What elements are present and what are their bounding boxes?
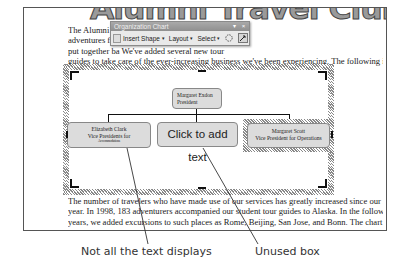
- org-box-title: President: [177, 99, 221, 106]
- resize-handle-bottom-right[interactable]: [318, 179, 327, 188]
- toolbar-close-button[interactable]: ×: [240, 23, 247, 30]
- org-box-title: Vice President for Operations: [248, 135, 329, 142]
- chevron-down-icon: ▾: [162, 35, 165, 41]
- resize-handle-bottom[interactable]: [198, 187, 206, 189]
- connector-line: [108, 114, 109, 122]
- toolbar-buttons: Insert Shape ▾ Layout ▾ Select ▾: [111, 31, 249, 45]
- text-line: The number of travelers who have made us…: [68, 196, 383, 206]
- body-paragraph[interactable]: The number of travelers who have made us…: [68, 196, 383, 227]
- caption-unused-box: Unused box: [255, 245, 320, 258]
- org-box-overflow-text: Accommodations: [68, 139, 150, 143]
- org-box-president[interactable]: Margaret Exdon President: [172, 88, 222, 109]
- resize-handle-top-left[interactable]: [70, 71, 79, 80]
- select-button[interactable]: Select ▾: [197, 35, 220, 42]
- toolbar-options-button[interactable]: ▾: [231, 23, 238, 30]
- text-line: years, we added excursions to such place…: [68, 217, 383, 227]
- resize-handle-bottom-left[interactable]: [70, 179, 79, 188]
- layout-button[interactable]: Layout ▾: [169, 35, 194, 42]
- resize-handle-top[interactable]: [198, 70, 206, 72]
- text-line: put together ba We've added several new …: [68, 46, 383, 56]
- connector-line: [108, 114, 290, 115]
- fit-text-button[interactable]: [238, 33, 248, 43]
- insert-shape-button[interactable]: Insert Shape ▾: [113, 34, 165, 43]
- toolbar-title: Organization Chart: [114, 23, 169, 30]
- org-box-vp-operations[interactable]: Margaret Scott Vice President for Operat…: [247, 123, 330, 148]
- org-box-placeholder[interactable]: Click to add text: [157, 122, 238, 147]
- fit-text-icon: [239, 34, 247, 42]
- resize-handle-top-right[interactable]: [318, 71, 327, 80]
- caption-text-not-displaying: Not all the text displays: [81, 245, 212, 258]
- text-line: year. In 1998, 183 adventurers accompani…: [68, 206, 383, 216]
- insert-shape-icon: [113, 34, 121, 43]
- connector-line: [196, 114, 197, 122]
- chevron-down-icon: ▾: [190, 35, 193, 41]
- text-cursor-handle: [66, 131, 68, 138]
- org-chart-toolbar[interactable]: Organization Chart ▾ × Insert Shape ▾ La…: [110, 21, 250, 46]
- org-box-vp-accommodations[interactable]: Elizabeth Clark Vice Presidents for Acco…: [67, 122, 151, 148]
- autoformat-icon: [224, 33, 234, 43]
- toolbar-title-bar[interactable]: Organization Chart ▾ ×: [111, 22, 249, 31]
- selection-handle-right[interactable]: [331, 131, 333, 138]
- chevron-down-icon: ▾: [217, 35, 220, 41]
- autoformat-button[interactable]: [224, 33, 234, 43]
